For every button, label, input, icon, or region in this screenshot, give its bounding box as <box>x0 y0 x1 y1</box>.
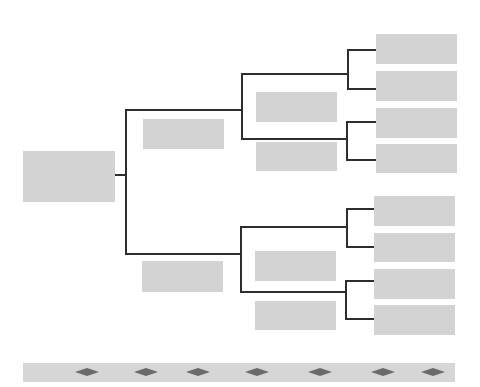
connector-level1-lower <box>125 253 242 255</box>
diamond-marker-icon <box>134 368 158 376</box>
level2-node-label <box>256 142 337 171</box>
connector-leaf-8 <box>345 318 374 320</box>
level1-node-label <box>143 119 224 149</box>
connector-level1-spine <box>125 109 127 255</box>
connector-leaf-bracket-1 <box>347 49 349 90</box>
connector-leaf-bracket-3 <box>346 208 348 248</box>
connector-level1-upper <box>125 109 243 111</box>
leaf-node-label <box>374 269 455 299</box>
timeline-strip <box>23 363 455 382</box>
connector-level2-lower-spine <box>240 226 242 293</box>
connector-leaf-7 <box>345 280 374 282</box>
level1-node-upper <box>143 119 224 149</box>
connector-level2-upper-spine <box>241 73 243 140</box>
leaf-node-8 <box>374 305 455 335</box>
leaf-node-4 <box>376 144 457 173</box>
level2-node-3 <box>255 251 336 281</box>
level2-node-label <box>256 92 337 122</box>
connector-leaf-2 <box>347 88 376 90</box>
leaf-node-6 <box>374 233 455 262</box>
level2-node-1 <box>256 92 337 122</box>
diamond-marker-icon <box>421 368 445 376</box>
level2-node-4 <box>255 301 336 330</box>
level2-node-label <box>255 301 336 330</box>
leaf-node-label <box>374 196 455 226</box>
leaf-node-label <box>376 144 457 173</box>
leaf-node-1 <box>376 34 457 64</box>
connector-leaf-bracket-2 <box>346 121 348 161</box>
level2-node-2 <box>256 142 337 171</box>
leaf-node-label <box>374 233 455 262</box>
leaf-node-5 <box>374 196 455 226</box>
connector-level2-lower-top <box>240 226 348 228</box>
connector-leaf-5 <box>346 208 374 210</box>
level1-node-label <box>142 261 223 292</box>
connector-leaf-1 <box>347 49 376 51</box>
level1-node-lower <box>142 261 223 292</box>
leaf-node-label <box>376 71 457 101</box>
connector-leaf-bracket-4 <box>345 280 347 320</box>
diamond-marker-icon <box>186 368 210 376</box>
leaf-node-label <box>376 34 457 64</box>
connector-leaf-4 <box>346 159 376 161</box>
root-node-label <box>23 151 115 202</box>
leaf-node-label <box>376 108 457 138</box>
diamond-marker-icon <box>308 368 332 376</box>
root-node <box>23 151 115 202</box>
level2-node-label <box>255 251 336 281</box>
diamond-marker-icon <box>75 368 99 376</box>
diamond-marker-icon <box>245 368 269 376</box>
connector-leaf-6 <box>346 246 374 248</box>
leaf-node-label <box>374 305 455 335</box>
connector-level2-upper-top <box>241 73 349 75</box>
connector-level2-upper-bottom <box>241 138 348 140</box>
leaf-node-2 <box>376 71 457 101</box>
connector-leaf-3 <box>346 121 376 123</box>
leaf-node-3 <box>376 108 457 138</box>
diamond-marker-icon <box>371 368 395 376</box>
connector-level2-lower-bottom <box>240 291 347 293</box>
leaf-node-7 <box>374 269 455 299</box>
